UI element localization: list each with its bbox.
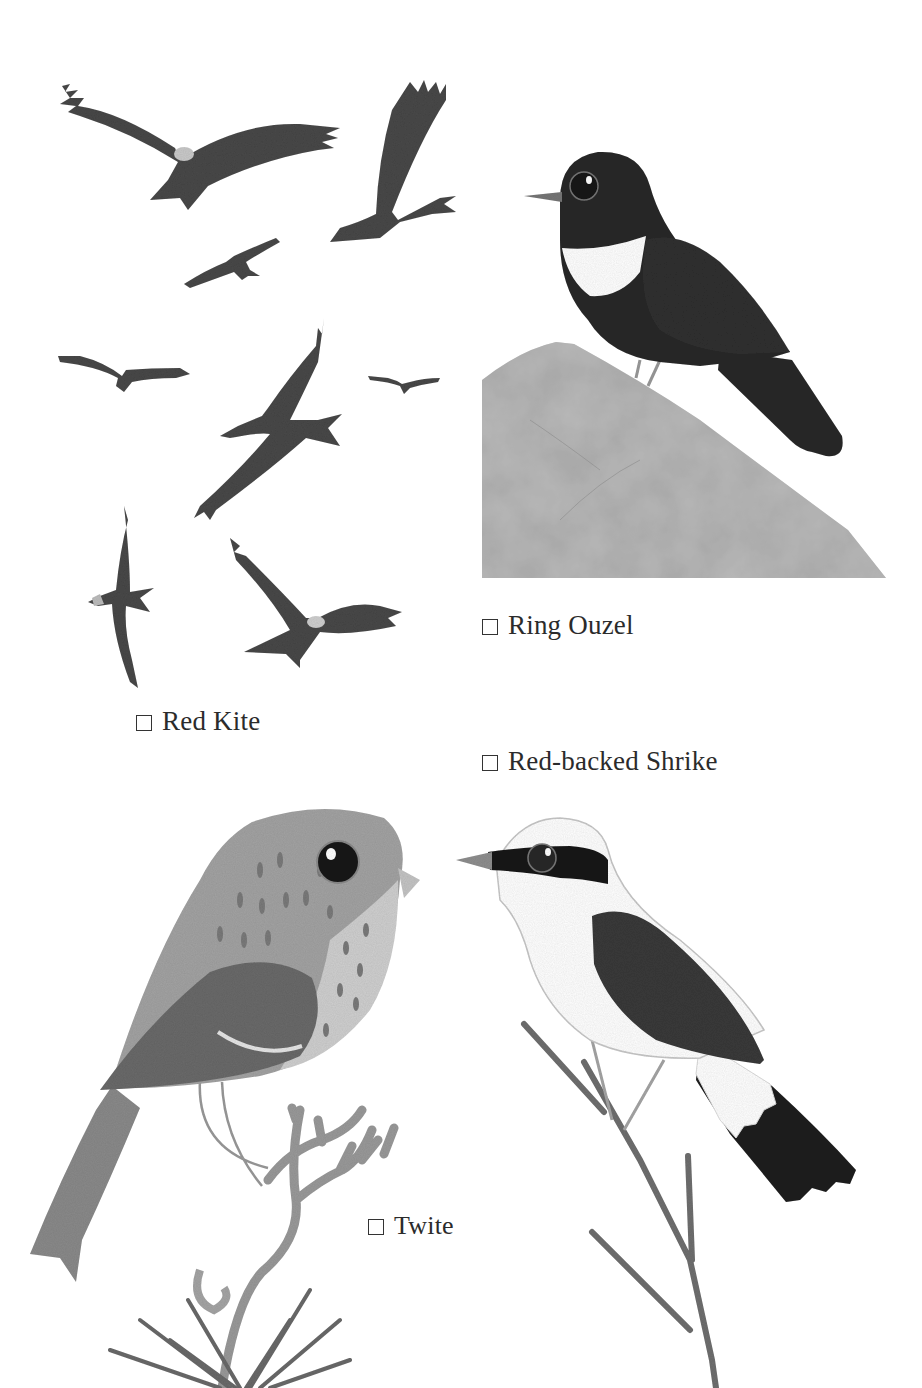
kite-7 <box>88 506 154 688</box>
twite-legs <box>200 1080 268 1186</box>
kite-8 <box>230 538 402 668</box>
kite-1 <box>60 84 340 210</box>
twite-beak <box>398 868 420 898</box>
checklist-item-red-backed-shrike[interactable]: Red-backed Shrike <box>482 746 718 777</box>
twite-illustration <box>30 809 420 1388</box>
checklist-label: Red Kite <box>162 706 260 737</box>
checklist-label: Red-backed Shrike <box>508 746 718 777</box>
checklist-item-red-kite[interactable]: Red Kite <box>136 706 260 737</box>
red-backed-shrike-illustration <box>456 818 856 1388</box>
checkbox-icon[interactable] <box>482 755 498 771</box>
checklist-label: Twite <box>394 1211 454 1241</box>
kite-4 <box>58 356 190 392</box>
twite-eye <box>317 841 359 883</box>
ouzel-beak <box>524 192 562 202</box>
checklist-label: Ring Ouzel <box>508 610 634 641</box>
kite-5 <box>368 376 440 394</box>
thorn-branch <box>524 1024 716 1388</box>
kite-6 <box>194 318 342 520</box>
red-kite-flock <box>58 80 456 688</box>
bird-illustrations <box>0 0 922 1388</box>
shrike-eye <box>528 844 556 872</box>
rock <box>482 342 886 578</box>
twite-tail <box>30 1086 140 1282</box>
checkbox-icon[interactable] <box>482 619 498 635</box>
ouzel-tail <box>718 350 843 456</box>
shrike-beak <box>456 852 492 870</box>
checkbox-icon[interactable] <box>368 1219 384 1235</box>
ring-ouzel-illustration <box>482 152 886 578</box>
checklist-item-ring-ouzel[interactable]: Ring Ouzel <box>482 610 634 641</box>
checklist-item-twite[interactable]: Twite <box>368 1211 454 1241</box>
kite-2 <box>330 80 456 242</box>
kite-3 <box>184 238 280 288</box>
checkbox-icon[interactable] <box>136 715 152 731</box>
ouzel-eye <box>570 172 598 200</box>
